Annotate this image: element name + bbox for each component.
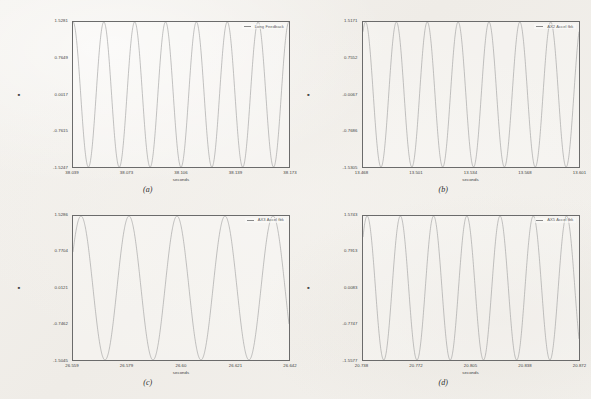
- x-tick-label: 26.60: [175, 364, 186, 368]
- legend-line-swatch-icon: [244, 26, 251, 27]
- legend-label-c: AX3 Accel fbk: [258, 218, 284, 222]
- x-tick-label: 38.073: [120, 171, 133, 175]
- chart-panel-b: AX2 Accel fbk 1.5171 0.7552 -0.0067 -0.7…: [296, 0, 591, 200]
- legend-c: AX3 Accel fbk: [245, 218, 286, 223]
- y-axis-ticks-d: 1.5743 0.7913 0.0083 -0.7747 -1.5577: [312, 215, 358, 361]
- x-tick-label: 13.601: [573, 171, 586, 175]
- legend-label-d: AX5 Accel fbk: [547, 218, 573, 222]
- y-tick-label: -0.7615: [53, 129, 68, 133]
- x-axis-label-a: seconds: [173, 178, 189, 182]
- x-tick-label: 26.579: [120, 364, 133, 368]
- x-tick-label: 20.772: [409, 364, 422, 368]
- y-tick-label: 0.7649: [55, 56, 68, 60]
- y-tick-label: 0.7552: [344, 56, 357, 60]
- legend-line-swatch-icon: [536, 26, 543, 27]
- chart-panel-c: AX3 Accel fbk 1.5286 0.7704 0.0121 -0.74…: [0, 200, 296, 399]
- waveform-trace-a: [73, 22, 289, 167]
- legend-d: AX5 Accel fbk: [534, 218, 575, 223]
- y-tick-label: -0.7747: [343, 322, 358, 326]
- x-tick-label: 13.568: [518, 171, 531, 175]
- y-tick-label: 0.7913: [344, 249, 357, 253]
- panel-caption-c: (c): [0, 378, 296, 387]
- figure-panel-grid: Long Feedback 1.5281 0.7649 0.0017 -0.76…: [0, 0, 591, 399]
- legend-line-swatch-icon: [247, 220, 254, 221]
- y-tick-label: -0.7462: [53, 322, 68, 326]
- panel-caption-d: (d): [296, 378, 591, 387]
- y-axis-marker-icon: ■: [307, 93, 309, 97]
- plot-area-b: AX2 Accel fbk: [362, 21, 580, 168]
- waveform-trace-c: [73, 216, 289, 360]
- waveform-trace-b: [363, 22, 579, 167]
- x-tick-label: 26.621: [229, 364, 242, 368]
- y-tick-label: 1.5743: [344, 212, 357, 216]
- x-tick-label: 20.838: [518, 364, 531, 368]
- y-tick-label: 0.0017: [55, 92, 68, 96]
- x-axis-label-b: seconds: [462, 178, 478, 182]
- y-tick-label: 1.5281: [55, 19, 68, 23]
- panel-caption-b: (b): [296, 185, 591, 194]
- legend-a: Long Feedback: [242, 24, 286, 29]
- y-tick-label: 0.7704: [55, 249, 68, 253]
- x-tick-label: 20.738: [355, 364, 368, 368]
- legend-line-swatch-icon: [536, 220, 543, 221]
- x-tick-label: 38.139: [229, 171, 242, 175]
- x-tick-label: 13.468: [355, 171, 368, 175]
- waveform-trace-d: [363, 216, 579, 360]
- y-tick-label: -0.0067: [343, 92, 358, 96]
- panel-b-inner: AX2 Accel fbk 1.5171 0.7552 -0.0067 -0.7…: [296, 0, 591, 200]
- y-axis-marker-icon: ■: [18, 93, 20, 97]
- panel-caption-a: (a): [0, 185, 296, 194]
- legend-b: AX2 Accel fbk: [534, 24, 575, 29]
- y-axis-marker-icon: ■: [18, 286, 20, 290]
- panel-d-inner: AX5 Accel fbk 1.5743 0.7913 0.0083 -0.77…: [296, 200, 591, 399]
- legend-label-a: Long Feedback: [255, 25, 284, 29]
- panel-a-inner: Long Feedback 1.5281 0.7649 0.0017 -0.76…: [0, 0, 296, 200]
- x-tick-label: 38.039: [65, 171, 78, 175]
- x-tick-label: 13.501: [409, 171, 422, 175]
- y-tick-label: 0.0121: [55, 285, 68, 289]
- x-tick-label: 13.534: [464, 171, 477, 175]
- x-tick-label: 20.872: [573, 364, 586, 368]
- plot-area-a: Long Feedback: [72, 21, 290, 168]
- y-tick-label: 1.5286: [55, 212, 68, 216]
- y-tick-label: 0.0083: [344, 285, 357, 289]
- y-axis-marker-icon: ■: [307, 286, 309, 290]
- panel-c-inner: AX3 Accel fbk 1.5286 0.7704 0.0121 -0.74…: [0, 200, 296, 399]
- legend-label-b: AX2 Accel fbk: [547, 25, 573, 29]
- plot-area-d: AX5 Accel fbk: [362, 215, 580, 361]
- y-axis-ticks-b: 1.5171 0.7552 -0.0067 -0.7686 -1.5305: [312, 21, 358, 168]
- y-axis-ticks-a: 1.5281 0.7649 0.0017 -0.7615 -1.5247: [22, 21, 68, 168]
- y-tick-label: 1.5171: [344, 19, 357, 23]
- x-tick-label: 26.559: [65, 364, 78, 368]
- y-tick-label: -0.7686: [343, 129, 358, 133]
- chart-panel-d: AX5 Accel fbk 1.5743 0.7913 0.0083 -0.77…: [296, 200, 591, 399]
- x-axis-label-d: seconds: [462, 371, 478, 375]
- chart-panel-a: Long Feedback 1.5281 0.7649 0.0017 -0.76…: [0, 0, 296, 200]
- y-axis-ticks-c: 1.5286 0.7704 0.0121 -0.7462 -1.5045: [22, 215, 68, 361]
- x-tick-label: 38.106: [174, 171, 187, 175]
- x-tick-label: 20.805: [464, 364, 477, 368]
- x-axis-label-c: seconds: [173, 371, 189, 375]
- plot-area-c: AX3 Accel fbk: [72, 215, 290, 361]
